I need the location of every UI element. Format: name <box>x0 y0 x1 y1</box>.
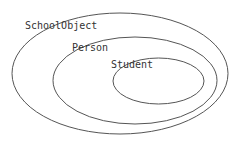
set-person-label: Person <box>72 42 108 53</box>
set-schoolobject-label: SchoolObject <box>25 20 97 31</box>
nested-set-diagram: SchoolObject Person Student <box>0 0 243 147</box>
set-student-label: Student <box>111 59 153 70</box>
